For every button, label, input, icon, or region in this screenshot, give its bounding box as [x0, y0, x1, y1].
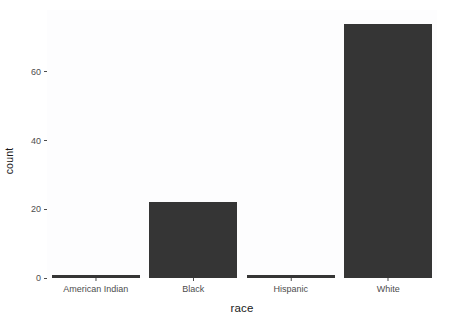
- x-axis-tick-mark: [193, 278, 194, 281]
- x-axis-tick-label: Hispanic: [273, 284, 308, 295]
- x-axis-tick-mark: [95, 278, 96, 281]
- x-axis-tick: Black: [182, 278, 204, 295]
- x-axis-title-label: race: [230, 302, 253, 314]
- x-axis-tick-label: White: [377, 284, 400, 295]
- x-axis-tick-label: American Indian: [63, 284, 128, 295]
- plot-panel: [47, 10, 437, 278]
- y-axis-tick-label: 60: [31, 66, 44, 78]
- y-axis-title: count: [0, 0, 18, 322]
- y-axis-tick-label: 20: [31, 203, 44, 215]
- x-axis-tick-mark: [290, 278, 291, 281]
- y-axis-title-label: count: [3, 148, 15, 175]
- y-axis-tick-label: 0: [36, 272, 44, 284]
- x-axis: American IndianBlackHispanicWhite: [47, 278, 437, 300]
- x-axis-tick-mark: [388, 278, 389, 281]
- bar: [149, 202, 237, 278]
- y-axis-tick: 60: [31, 66, 47, 78]
- bar-chart-figure: count 0204060 American IndianBlackHispan…: [0, 0, 457, 322]
- x-axis-title: race: [47, 300, 437, 316]
- x-axis-tick: American Indian: [63, 278, 128, 295]
- y-axis: 0204060: [18, 10, 47, 278]
- x-axis-tick: Hispanic: [273, 278, 308, 295]
- y-axis-tick: 20: [31, 203, 47, 215]
- x-axis-tick-label: Black: [182, 284, 204, 295]
- y-axis-tick: 0: [36, 272, 47, 284]
- y-axis-tick: 40: [31, 135, 47, 147]
- x-axis-tick: White: [377, 278, 400, 295]
- bar: [344, 24, 432, 278]
- y-axis-tick-label: 40: [31, 135, 44, 147]
